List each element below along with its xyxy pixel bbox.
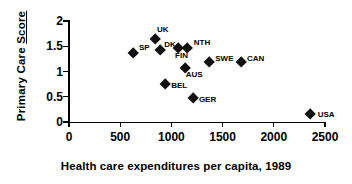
x-tick-500 — [120, 122, 121, 127]
point-label-uk: UK — [157, 26, 169, 34]
x-tick-0 — [68, 122, 69, 127]
point-label-nth: NTH — [194, 39, 210, 47]
x-tick-2000 — [273, 122, 274, 127]
y-tick-label-1: 1 — [21, 66, 63, 78]
y-tick-label-0.5: 0.5 — [21, 91, 63, 103]
x-tick-label-2000: 2000 — [249, 131, 299, 143]
x-tick-2500 — [324, 122, 325, 127]
y-tick-label-1.5: 1.5 — [21, 40, 63, 52]
point-label-can: CAN — [247, 55, 264, 63]
x-tick-label-1500: 1500 — [198, 131, 248, 143]
point-label-usa: USA — [318, 111, 335, 119]
point-label-ger: GER — [199, 96, 216, 104]
y-axis-title-plain: Primary Care — [15, 44, 27, 121]
x-tick-label-1000: 1000 — [146, 131, 196, 143]
y-tick-label-2: 2 — [21, 15, 63, 27]
point-label-aus: AUS — [186, 71, 203, 79]
point-label-sp: SP — [139, 44, 150, 52]
point-label-bel: BEL — [171, 82, 187, 90]
x-axis-title: Health care expenditures per capita, 198… — [0, 160, 352, 172]
x-tick-1000 — [171, 122, 172, 127]
x-tick-label-0: 0 — [44, 131, 94, 143]
x-tick-label-500: 500 — [95, 131, 145, 143]
y-tick-label-0: 0 — [21, 116, 63, 128]
x-tick-1500 — [222, 122, 223, 127]
point-label-swe: SWE — [215, 55, 233, 63]
x-tick-label-2500: 2500 — [300, 131, 350, 143]
scatter-chart: Primary Care Score 00.511.52 05001000150… — [0, 0, 352, 184]
